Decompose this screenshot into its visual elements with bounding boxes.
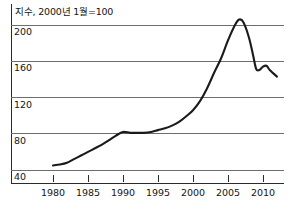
y-axis-tick-label: 160 <box>14 63 32 73</box>
x-axis-tick-label: 2000 <box>181 188 205 198</box>
y-axis-tick-label: 40 <box>14 172 26 182</box>
y-axis-tick-label: 120 <box>14 100 32 110</box>
x-axis-tick-label: 2005 <box>216 188 240 198</box>
gridline-group <box>11 25 284 170</box>
x-axis-tick-label: 1985 <box>76 188 100 198</box>
x-axis-tick-label: 1990 <box>111 188 135 198</box>
x-axis-tick-label: 1995 <box>146 188 170 198</box>
x-axis-tick-label: 1980 <box>41 188 65 198</box>
x-axis-tick-label: 2010 <box>251 188 275 198</box>
data-series-line <box>53 19 277 165</box>
chart-plot-area <box>0 0 296 215</box>
y-axis-tick-label: 80 <box>14 136 26 146</box>
x-tick-group <box>53 175 263 182</box>
y-axis-tick-label: 200 <box>14 27 32 37</box>
chart-container: 지수, 2000년 1월=100 2001601208040 198019851… <box>0 0 296 215</box>
